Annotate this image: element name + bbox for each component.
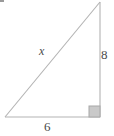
hypotenuse-label: x bbox=[39, 45, 44, 57]
horizontal-leg-label: 6 bbox=[44, 120, 51, 133]
right-angle-marker-icon bbox=[89, 106, 100, 117]
triangle-svg bbox=[0, 0, 114, 136]
vertical-leg-label: 8 bbox=[101, 48, 108, 61]
hypotenuse-line bbox=[5, 2, 100, 117]
corner-artifact bbox=[0, 0, 4, 2]
right-triangle-figure: x 8 6 bbox=[0, 0, 114, 136]
